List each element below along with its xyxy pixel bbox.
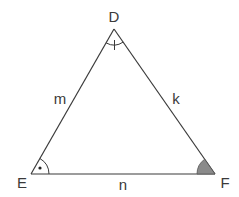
- vertex-label-d: D: [109, 8, 120, 25]
- angle-marker-f: [197, 159, 215, 174]
- side-label-n: n: [119, 176, 127, 193]
- side-label-k: k: [172, 90, 180, 107]
- side-label-m: m: [54, 90, 67, 107]
- vertex-label-e: E: [17, 174, 27, 191]
- side-k: [114, 29, 215, 174]
- angle-marker-e: [38, 159, 49, 175]
- triangle-diagram: D E F m k n: [0, 0, 239, 197]
- side-m: [31, 29, 114, 174]
- vertex-label-f: F: [220, 174, 229, 191]
- angle-marker-d: [106, 40, 123, 50]
